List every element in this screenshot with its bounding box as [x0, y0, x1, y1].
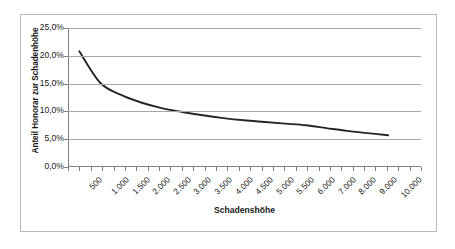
x-axis-tick-label: 5.500 — [295, 175, 316, 196]
y-axis-tick — [64, 56, 68, 57]
x-axis-tick — [330, 167, 331, 171]
x-axis-tick — [375, 167, 376, 171]
x-axis-tick — [387, 167, 388, 171]
x-axis-tick — [136, 167, 137, 171]
y-axis-tick-label: 20,0% — [24, 51, 64, 60]
x-axis-tick — [296, 167, 297, 171]
x-axis-tick — [148, 167, 149, 171]
curve-path — [79, 51, 388, 135]
gridline — [68, 28, 421, 29]
y-axis-tick — [64, 139, 68, 140]
x-axis-tick — [182, 167, 183, 171]
x-axis-tick-label: 500 — [87, 175, 103, 191]
x-axis-tick — [262, 167, 263, 171]
x-axis-tick — [307, 167, 308, 171]
x-axis-tick-label: 6.000 — [316, 175, 337, 196]
y-axis-tick-label: 0,0% — [24, 162, 64, 171]
x-axis-tick-label: 8.000 — [357, 175, 378, 196]
x-axis-tick-label: 9.000 — [378, 175, 399, 196]
gridline — [68, 111, 421, 112]
y-axis-tick-label: 5,0% — [24, 134, 64, 143]
x-axis-tick — [102, 167, 103, 171]
x-axis-tick — [319, 167, 320, 171]
y-axis-tick-label: 15,0% — [24, 79, 64, 88]
x-axis-tick — [216, 167, 217, 171]
plot-area — [68, 28, 421, 167]
x-axis-tick — [341, 167, 342, 171]
x-axis-tick-label: 2.500 — [172, 175, 193, 196]
x-axis-tick — [410, 167, 411, 171]
gridline — [68, 139, 421, 140]
x-axis-title: Schadenshöhe — [68, 205, 421, 215]
x-axis-tick — [421, 167, 422, 171]
x-axis-tick — [364, 167, 365, 171]
x-axis-tick — [68, 167, 69, 171]
x-axis-tick — [227, 167, 228, 171]
gridline — [68, 84, 421, 85]
gridline — [68, 56, 421, 57]
x-axis-tick-label: 1.500 — [131, 175, 152, 196]
y-axis-tick-label: 25,0% — [24, 23, 64, 32]
x-axis-tick-label: 1.000 — [110, 175, 131, 196]
x-axis-tick — [193, 167, 194, 171]
x-axis-tick-label: 4.500 — [254, 175, 275, 196]
x-axis-tick — [114, 167, 115, 171]
x-axis-tick-label: 7.000 — [336, 175, 357, 196]
x-axis-tick-label: 3.000 — [192, 175, 213, 196]
x-axis-tick — [353, 167, 354, 171]
y-axis-tick — [64, 28, 68, 29]
x-axis-tick-label: 5.000 — [275, 175, 296, 196]
x-axis-tick — [159, 167, 160, 171]
x-axis-tick-label: 4.000 — [234, 175, 255, 196]
x-axis-tick — [91, 167, 92, 171]
x-axis-tick — [125, 167, 126, 171]
x-axis-tick — [79, 167, 80, 171]
x-axis-tick — [170, 167, 171, 171]
x-axis-tick — [250, 167, 251, 171]
x-axis-tick-label: 3.500 — [213, 175, 234, 196]
y-axis-tick — [64, 111, 68, 112]
curve-series — [68, 28, 421, 167]
x-axis-tick — [284, 167, 285, 171]
x-axis-tick — [398, 167, 399, 171]
y-axis-tick — [64, 84, 68, 85]
y-axis-tick-label: 10,0% — [24, 106, 64, 115]
x-axis-tick — [273, 167, 274, 171]
x-axis-tick — [205, 167, 206, 171]
x-axis-tick-label: 2.000 — [151, 175, 172, 196]
x-axis-tick-label: 10.000 — [400, 175, 424, 199]
x-axis-tick — [239, 167, 240, 171]
y-axis-tick-labels: 25,0%20,0%15,0%10,0%5,0%0,0% — [20, 0, 64, 180]
